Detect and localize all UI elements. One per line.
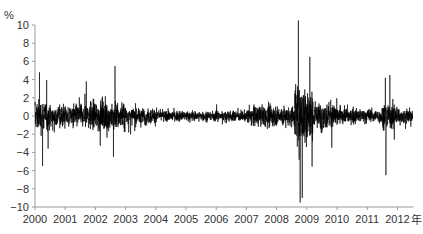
x-tick-label: 2010 <box>325 213 349 225</box>
x-tick-label: 2004 <box>144 213 168 225</box>
plot-area <box>35 20 413 202</box>
y-tick-label: −4 <box>16 146 29 158</box>
line-chart: % 1086420−2−4−6−8−10 2000200120022003200… <box>0 0 423 234</box>
y-tick-label: −2 <box>16 128 29 140</box>
x-tick-label: 2007 <box>234 213 258 225</box>
y-tick-label: 0 <box>23 110 29 122</box>
y-tick-label: −6 <box>16 165 29 177</box>
x-tick-label: 2011 <box>355 213 379 225</box>
x-tick-label: 2001 <box>53 213 77 225</box>
y-tick-label: 6 <box>23 55 29 67</box>
x-unit-label: 年 <box>411 213 422 226</box>
x-tick-label: 2008 <box>264 213 288 225</box>
x-tick-label: 2000 <box>23 213 47 225</box>
y-tick-label: 8 <box>23 37 29 49</box>
series-line <box>35 20 413 202</box>
x-tick-label: 2006 <box>204 213 228 225</box>
x-tick-label: 2012 <box>385 213 409 225</box>
x-tick-label: 2009 <box>295 213 319 225</box>
x-tick-label: 2002 <box>83 213 107 225</box>
y-tick-label: 10 <box>17 19 29 31</box>
y-unit-label: % <box>4 9 14 21</box>
x-tick-label: 2003 <box>113 213 137 225</box>
x-tick-label: 2005 <box>174 213 198 225</box>
y-tick-label: 2 <box>23 92 29 104</box>
y-tick-label: 4 <box>23 74 29 86</box>
y-axis: 1086420−2−4−6−8−10 <box>10 19 35 213</box>
x-axis: 2000200120022003200420052006200720082009… <box>23 207 414 225</box>
y-tick-label: −10 <box>10 201 29 213</box>
y-tick-label: −8 <box>16 183 29 195</box>
